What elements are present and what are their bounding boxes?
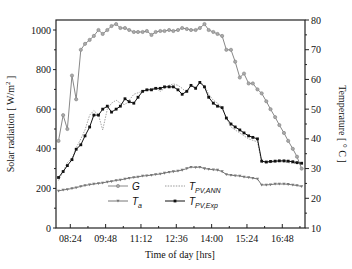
legend-item: Ta bbox=[108, 196, 142, 209]
legend-label: Ta bbox=[132, 196, 142, 209]
legend-label: TPV,ANN bbox=[189, 181, 222, 194]
series-t-a bbox=[57, 166, 303, 193]
x-tick-label: 12:36 bbox=[165, 233, 188, 244]
legend-item: G bbox=[108, 181, 140, 192]
y-left-tick-label: 200 bbox=[36, 183, 51, 194]
x-tick-label: 08:24 bbox=[59, 233, 82, 244]
y-left-tick-label: 0 bbox=[46, 223, 51, 234]
y-left-tick-label: 1000 bbox=[31, 25, 51, 36]
series-t-pv-exp bbox=[57, 81, 303, 179]
y-right-tick-label: 60 bbox=[311, 74, 321, 85]
y-axis-right: 1020304050607080 bbox=[305, 15, 321, 234]
x-tick-label: 11:12 bbox=[130, 233, 152, 244]
series-g bbox=[57, 22, 303, 170]
y-axis-left: 02004006008001000 bbox=[31, 25, 56, 234]
x-axis-label: Time of day [hrs] bbox=[145, 249, 215, 260]
series-layer bbox=[57, 22, 303, 192]
x-tick-label: 09:48 bbox=[94, 233, 117, 244]
legend-item: TPV,Exp bbox=[165, 196, 218, 210]
y-right-tick-label: 50 bbox=[311, 104, 321, 115]
x-tick-label: 16:48 bbox=[271, 233, 294, 244]
y-left-tick-label: 600 bbox=[36, 104, 51, 115]
legend-label: G bbox=[132, 181, 140, 192]
legend: GTPV,ANNTaTPV,Exp bbox=[108, 181, 222, 210]
chart: 08:2409:4811:1212:3614:0015:2416:48 0200… bbox=[0, 0, 352, 269]
y-right-tick-label: 10 bbox=[311, 223, 321, 234]
y-right-tick-label: 20 bbox=[311, 193, 321, 204]
legend-label: TPV,Exp bbox=[189, 196, 218, 210]
y-left-tick-label: 400 bbox=[36, 143, 51, 154]
legend-item: TPV,ANN bbox=[165, 181, 222, 194]
y-right-tick-label: 80 bbox=[311, 15, 321, 26]
y-left-tick-label: 800 bbox=[36, 64, 51, 75]
y-right-tick-label: 30 bbox=[311, 163, 321, 174]
y-axis-left-label: Solar radiation [ W/m2 ] bbox=[4, 76, 16, 173]
x-axis: 08:2409:4811:1212:3614:0015:2416:48 bbox=[59, 224, 300, 244]
y-axis-right-label: Temperature [ ° C ] bbox=[337, 85, 348, 163]
series-t-pv-ann bbox=[59, 82, 302, 180]
x-tick-label: 14:00 bbox=[200, 233, 223, 244]
x-tick-label: 15:24 bbox=[236, 233, 259, 244]
y-right-tick-label: 70 bbox=[311, 44, 321, 55]
plot-frame bbox=[56, 20, 305, 228]
y-right-tick-label: 40 bbox=[311, 133, 321, 144]
